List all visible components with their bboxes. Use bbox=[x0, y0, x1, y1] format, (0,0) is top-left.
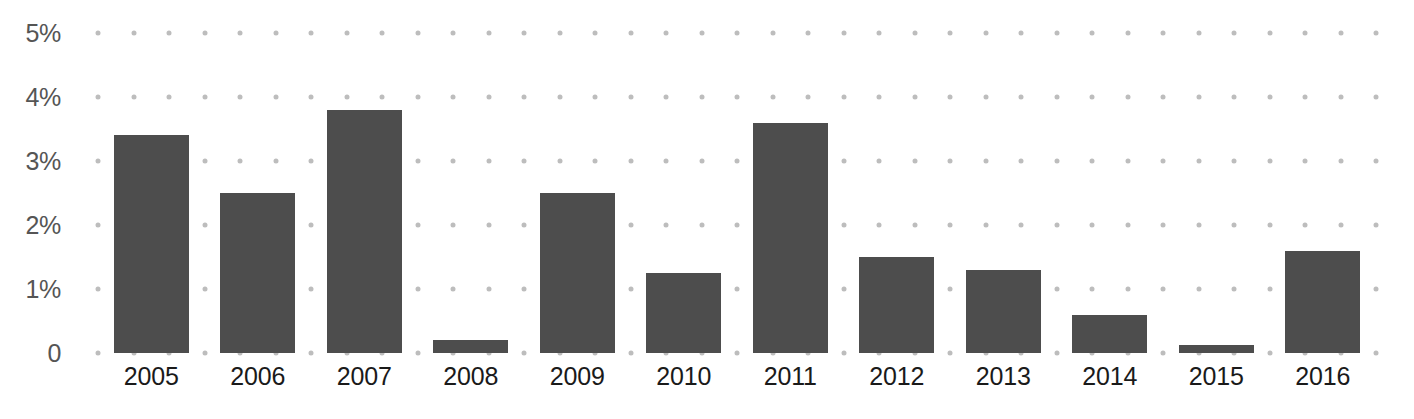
x-axis-tick-label-2013: 2013 bbox=[976, 362, 1031, 391]
plot-area bbox=[80, 33, 1394, 353]
y-axis-tick-label: 3% bbox=[25, 147, 61, 176]
bar-2006[interactable] bbox=[220, 193, 295, 353]
bars-layer bbox=[80, 33, 1394, 353]
bar-2011[interactable] bbox=[753, 123, 828, 353]
x-axis-tick-label-2009: 2009 bbox=[550, 362, 605, 391]
x-axis-tick-label-2007: 2007 bbox=[337, 362, 392, 391]
x-axis-tick-label-2014: 2014 bbox=[1082, 362, 1137, 391]
y-axis-tick-label: 2% bbox=[25, 211, 61, 240]
y-axis: 01%2%3%4%5% bbox=[0, 0, 80, 419]
bar-2013[interactable] bbox=[966, 270, 1041, 353]
bar-chart: 01%2%3%4%5% 2005200620072008200920102011… bbox=[0, 0, 1414, 419]
bar-2008[interactable] bbox=[433, 340, 508, 353]
x-axis-tick-label-2011: 2011 bbox=[764, 362, 817, 391]
bar-2014[interactable] bbox=[1072, 315, 1147, 353]
x-axis-tick-label-2006: 2006 bbox=[230, 362, 285, 391]
x-axis-tick-label-2005: 2005 bbox=[124, 362, 179, 391]
y-axis-tick-label: 5% bbox=[25, 19, 61, 48]
x-axis: 2005200620072008200920102011201220132014… bbox=[80, 362, 1394, 407]
y-axis-tick-label: 4% bbox=[25, 83, 61, 112]
y-axis-tick-label: 0 bbox=[47, 339, 61, 368]
x-axis-tick-label-2010: 2010 bbox=[656, 362, 711, 391]
bar-2010[interactable] bbox=[646, 273, 721, 353]
bar-2007[interactable] bbox=[327, 110, 402, 353]
x-axis-tick-label-2012: 2012 bbox=[869, 362, 924, 391]
bar-2009[interactable] bbox=[540, 193, 615, 353]
y-axis-tick-label: 1% bbox=[25, 275, 61, 304]
bar-2005[interactable] bbox=[114, 135, 189, 353]
x-axis-tick-label-2008: 2008 bbox=[443, 362, 498, 391]
bar-2016[interactable] bbox=[1285, 251, 1360, 353]
x-axis-tick-label-2016: 2016 bbox=[1295, 362, 1350, 391]
x-axis-tick-label-2015: 2015 bbox=[1189, 362, 1244, 391]
bar-2015[interactable] bbox=[1179, 345, 1254, 353]
bar-2012[interactable] bbox=[859, 257, 934, 353]
